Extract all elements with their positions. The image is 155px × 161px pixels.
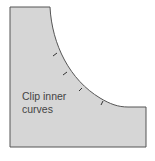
- label-line-2: curves: [22, 103, 66, 116]
- clip-inner-curves-diagram: Clip inner curves: [0, 0, 155, 161]
- fabric-piece-shape: [0, 0, 155, 161]
- fabric-piece: [10, 7, 146, 147]
- label-line-1: Clip inner: [22, 90, 66, 103]
- diagram-label: Clip inner curves: [22, 90, 66, 116]
